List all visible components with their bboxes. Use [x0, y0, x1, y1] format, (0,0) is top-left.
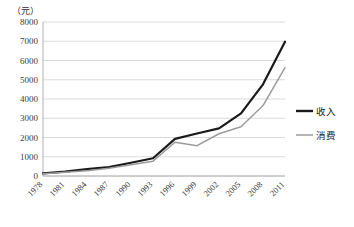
- y-tick-label: 4000: [20, 94, 39, 104]
- legend-label-消费[interactable]: 消费: [316, 130, 336, 141]
- y-axis-unit-label: （元）: [12, 6, 39, 16]
- line-chart: （元） 010002000300040005000600070008000 19…: [0, 0, 354, 227]
- y-tick-label: 3000: [20, 113, 39, 123]
- y-tick-label: 8000: [20, 17, 39, 27]
- chart-canvas: （元） 010002000300040005000600070008000 19…: [0, 0, 354, 227]
- y-tick-label: 2000: [20, 133, 39, 143]
- y-tick-label: 7000: [20, 36, 39, 46]
- y-tick-label: 6000: [20, 56, 39, 66]
- y-tick-label: 5000: [20, 75, 39, 85]
- y-tick-label: 1000: [20, 152, 39, 162]
- legend-label-收入[interactable]: 收入: [316, 106, 336, 117]
- y-axis-tick-labels: 010002000300040005000600070008000: [20, 17, 39, 181]
